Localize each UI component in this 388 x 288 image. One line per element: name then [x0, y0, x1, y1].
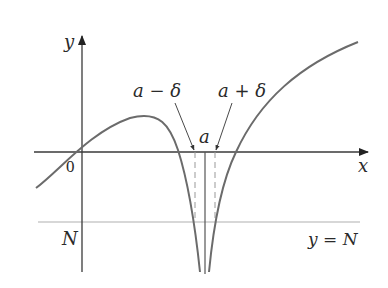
a-minus-delta-label: a − δ — [133, 80, 181, 101]
diagram: y x 0 N y = N a − δ a + δ a — [0, 0, 388, 288]
N-label: N — [61, 228, 79, 249]
origin-label: 0 — [66, 157, 75, 176]
curve-left-branch — [36, 116, 200, 272]
x-axis-label: x — [358, 155, 368, 176]
y-equals-N-label: y = N — [307, 229, 359, 249]
pointer-a-minus-delta — [175, 103, 194, 150]
y-axis-label: y — [63, 31, 75, 52]
a-label: a — [199, 126, 210, 147]
a-plus-delta-label: a + δ — [218, 80, 266, 101]
pointer-a-plus-delta — [216, 103, 232, 150]
